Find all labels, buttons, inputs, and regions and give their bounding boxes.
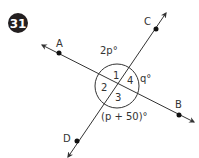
angle-number-3: 3	[115, 92, 121, 103]
point-c-label: C	[144, 16, 151, 27]
point-d-label: D	[63, 133, 71, 144]
angle-number-4: 4	[127, 75, 133, 86]
angle-label-top: 2p°	[100, 45, 118, 56]
angle-number-2: 2	[101, 82, 107, 93]
geometry-diagram: 31 A C B D 2p° q° (p + 50)° 1 2 3 4	[0, 0, 199, 158]
point-b-dot	[177, 113, 182, 118]
point-a-dot	[57, 51, 62, 56]
problem-number: 31	[10, 17, 27, 31]
problem-number-badge: 31	[8, 13, 28, 33]
angle-label-bottom: (p + 50)°	[101, 111, 148, 122]
angle-label-right: q°	[140, 73, 151, 84]
point-d-dot	[75, 139, 80, 144]
line-cd	[68, 13, 166, 157]
point-a-label: A	[56, 38, 63, 49]
point-b-label: B	[175, 99, 182, 110]
angle-number-1: 1	[113, 70, 119, 81]
point-c-dot	[154, 27, 159, 32]
